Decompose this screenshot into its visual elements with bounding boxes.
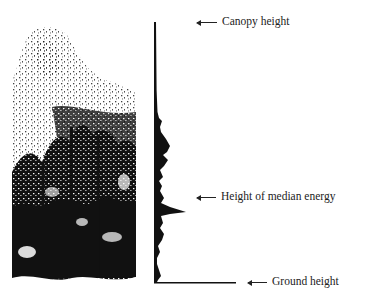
median-arrow-icon bbox=[197, 197, 216, 198]
canopy-arrow-icon bbox=[197, 22, 217, 23]
waveform-profile bbox=[0, 0, 365, 302]
canopy-height-label: Canopy height bbox=[222, 16, 289, 28]
waveform-curve bbox=[154, 22, 236, 284]
ground-height-label: Ground height bbox=[272, 276, 339, 288]
median-energy-label: Height of median energy bbox=[221, 191, 335, 203]
ground-arrow-icon bbox=[248, 282, 267, 283]
